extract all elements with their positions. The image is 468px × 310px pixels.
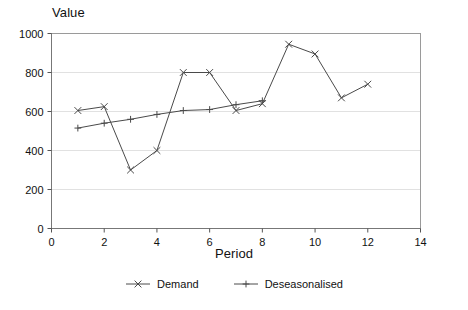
plot-frame — [52, 34, 421, 229]
y-tick-label-1000: 1000 — [19, 28, 43, 40]
data-point-deseasonalised-2 — [101, 120, 108, 127]
chart-plot-area: 02004006008001000 02468101214 — [0, 0, 468, 310]
legend-marker-plus-icon — [233, 278, 259, 290]
data-point-demand-10 — [312, 51, 319, 58]
data-point-deseasonalised-4 — [154, 111, 161, 118]
data-point-deseasonalised-1 — [74, 125, 81, 132]
data-point-demand-3 — [127, 167, 134, 174]
y-tick-label-600: 600 — [25, 106, 43, 118]
data-series — [74, 41, 371, 174]
legend-label: Deseasonalised — [265, 278, 343, 290]
y-tick-label-200: 200 — [25, 184, 43, 196]
legend-marker-x-icon — [125, 278, 151, 290]
chart-legend: DemandDeseasonalised — [0, 278, 468, 290]
data-point-deseasonalised-3 — [127, 116, 134, 123]
legend-entry-deseasonalised[interactable]: Deseasonalised — [233, 278, 343, 290]
data-point-deseasonalised-5 — [180, 107, 187, 114]
legend-label: Demand — [157, 278, 199, 290]
y-axis-tick-labels: 02004006008001000 — [19, 28, 43, 235]
y-tick-label-800: 800 — [25, 67, 43, 79]
legend-marker-glyph — [242, 281, 249, 288]
gridlines — [52, 34, 421, 190]
axis-ticks — [48, 34, 421, 233]
x-axis-title: Period — [0, 246, 468, 261]
data-point-demand-7 — [233, 107, 240, 114]
data-point-deseasonalised-6 — [206, 106, 213, 113]
chart-container: Value 02004006008001000 02468101214 Peri… — [0, 0, 468, 310]
data-point-demand-12 — [364, 81, 371, 88]
y-tick-label-400: 400 — [25, 145, 43, 157]
legend-entry-demand[interactable]: Demand — [125, 278, 199, 290]
plot-border — [52, 34, 421, 229]
data-point-demand-9 — [285, 41, 292, 48]
y-tick-label-0: 0 — [37, 223, 43, 235]
data-point-demand-11 — [338, 94, 345, 101]
